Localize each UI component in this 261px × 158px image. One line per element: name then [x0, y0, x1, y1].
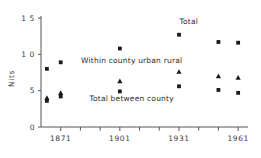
y-axis: 051 01 5: [21, 14, 41, 132]
chart-annotation-0: Total: [179, 17, 199, 26]
data-point-square: [45, 99, 49, 103]
y-axis-title: Nits: [7, 70, 16, 87]
data-point-triangle: [176, 69, 181, 74]
data-point-triangle: [236, 75, 241, 80]
chart-annotation-1: Within county urban rural: [81, 56, 182, 65]
data-point-square: [45, 67, 49, 71]
data-point-triangle: [58, 90, 63, 95]
x-tick-label: 1931: [168, 134, 190, 143]
x-axis: 1871190119311961: [41, 127, 249, 143]
annotations-layer: TotalWithin county urban ruralTotal betw…: [81, 17, 198, 103]
y-tick-label: 0: [30, 123, 35, 132]
x-tick-label: 1871: [50, 134, 72, 143]
data-point-square: [217, 88, 221, 92]
data-point-square: [59, 60, 63, 64]
y-axis-tick-labels: 051 01 5: [21, 14, 35, 132]
data-point-triangle: [117, 79, 122, 84]
x-axis-ticks: [61, 127, 238, 131]
data-point-square: [118, 47, 122, 51]
chart-annotation-2: Total between county: [89, 94, 175, 103]
data-point-square: [177, 84, 181, 88]
data-point-triangle: [216, 74, 221, 79]
y-tick-label: 1 5: [21, 14, 35, 23]
data-points-layer: [44, 33, 240, 103]
data-point-square: [177, 33, 181, 37]
y-tick-label: 5: [30, 86, 35, 95]
y-tick-label: 1 0: [21, 50, 35, 59]
data-point-square: [236, 41, 240, 45]
data-point-square: [59, 95, 63, 99]
data-point-square: [236, 91, 240, 95]
scatter-chart: 051 01 5 1871190119311961 Nits TotalWith…: [0, 0, 261, 158]
x-axis-tick-labels: 1871190119311961: [50, 134, 249, 143]
data-point-square: [217, 40, 221, 44]
series-0: [45, 33, 240, 71]
x-tick-label: 1901: [109, 134, 131, 143]
data-point-square: [118, 89, 122, 93]
x-tick-label: 1961: [227, 134, 249, 143]
